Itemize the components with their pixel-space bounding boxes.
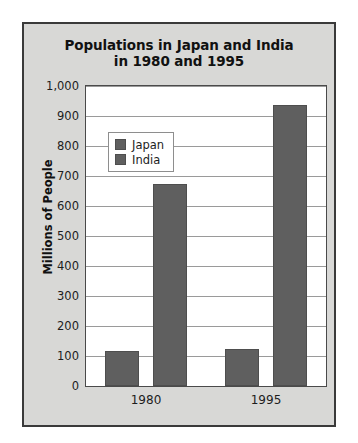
chart-page: Populations in Japan and India in 1980 a…	[0, 0, 358, 443]
y-tick-label: 200	[57, 319, 79, 333]
x-tick-label: 1980	[131, 393, 162, 407]
bar-india-1995	[273, 105, 307, 386]
chart-title-line-1: Populations in Japan and India	[24, 37, 334, 53]
chart-legend: JapanIndia	[108, 132, 174, 172]
gridline	[86, 86, 326, 87]
chart-title-line-2: in 1980 and 1995	[24, 53, 334, 69]
plot-frame: 01002003004005006007008009001,0001980199…	[85, 85, 327, 387]
y-tick-label: 800	[57, 139, 79, 153]
legend-swatch-icon	[115, 154, 126, 165]
legend-item-japan: Japan	[115, 137, 164, 152]
legend-swatch-icon	[115, 139, 126, 150]
legend-item-india: India	[115, 152, 164, 167]
y-tick-label: 0	[72, 379, 79, 393]
y-tick-label: 500	[57, 229, 79, 243]
bar-japan-1980	[105, 351, 139, 386]
chart-panel: Populations in Japan and India in 1980 a…	[22, 22, 336, 427]
chart-title: Populations in Japan and India in 1980 a…	[24, 37, 334, 69]
y-tick-label: 1,000	[46, 79, 79, 93]
plot-area: 01002003004005006007008009001,0001980199…	[86, 86, 326, 386]
x-tick-label: 1995	[251, 393, 282, 407]
legend-label: Japan	[132, 138, 164, 152]
y-tick-label: 700	[57, 169, 79, 183]
y-tick-label: 900	[57, 109, 79, 123]
y-tick-label: 100	[57, 349, 79, 363]
y-tick-label: 300	[57, 289, 79, 303]
y-tick-label: 400	[57, 259, 79, 273]
y-axis-title: Millions of People	[41, 147, 55, 287]
legend-label: India	[132, 153, 160, 167]
bar-india-1980	[153, 184, 187, 386]
y-tick-label: 600	[57, 199, 79, 213]
bar-japan-1995	[225, 349, 259, 387]
